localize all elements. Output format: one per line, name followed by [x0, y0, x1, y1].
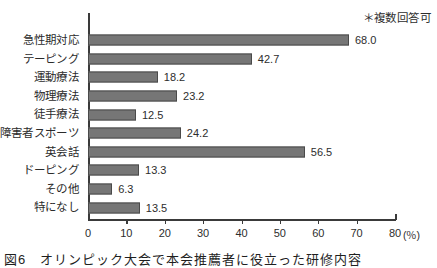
bar-value-label: 42.7 [258, 53, 279, 65]
bar-value-label: 18.2 [164, 71, 185, 83]
x-axis-tick-label: 20 [159, 227, 171, 239]
x-axis-tick [357, 219, 358, 224]
bar [88, 128, 181, 139]
bar [88, 146, 305, 157]
category-label: 運動療法 [34, 68, 79, 87]
x-axis-tick-label: 40 [235, 227, 247, 239]
x-axis-tick-label: 80 [389, 227, 401, 239]
bar [88, 184, 112, 195]
category-label: 英会話 [45, 143, 79, 162]
plot-area: (％) 0102030405060708068.042.718.223.212.… [88, 13, 395, 219]
x-axis-tick [395, 214, 397, 220]
bar-value-label: 12.5 [142, 109, 163, 121]
bar [88, 35, 349, 46]
category-label: ドーピング [23, 161, 80, 180]
bar [88, 91, 177, 102]
category-label: その他 [45, 180, 79, 199]
chart-row: 12.5 [88, 105, 395, 124]
bar [88, 202, 140, 213]
x-axis-tick [242, 219, 243, 224]
x-axis-tick [280, 219, 281, 224]
x-axis-unit-label: (％) [403, 227, 420, 242]
bar [88, 72, 158, 83]
bar [88, 109, 136, 120]
category-label: テーピング [23, 50, 80, 69]
chart-row: 68.0 [88, 31, 395, 50]
bar [88, 165, 139, 176]
x-axis-tick [203, 219, 204, 224]
x-axis-tick [165, 219, 166, 224]
chart-row: 23.2 [88, 87, 395, 106]
x-axis-tick-label: 0 [85, 227, 91, 239]
category-label: 障害者スポーツ [0, 124, 79, 143]
bar-value-label: 68.0 [355, 34, 376, 46]
category-label: 物理療法 [34, 87, 79, 106]
x-axis-tick-label: 30 [197, 227, 209, 239]
x-axis-tick-label: 70 [351, 227, 363, 239]
x-axis-tick-label: 50 [274, 227, 286, 239]
bar [88, 53, 252, 64]
category-label: 急性期対応 [23, 31, 80, 50]
bar-value-label: 6.3 [118, 183, 133, 195]
bar-value-label: 13.5 [146, 202, 167, 214]
x-axis-tick-label: 10 [120, 227, 132, 239]
x-axis-tick-label: 60 [312, 227, 324, 239]
category-label: 特になし [34, 198, 79, 217]
bar-value-label: 23.2 [183, 90, 204, 102]
category-label-column: 急性期対応テーピング運動療法物理療法徒手療法障害者スポーツ英会話ドーピングその他… [0, 13, 84, 219]
category-label: 徒手療法 [34, 105, 79, 124]
chart-row: 13.5 [88, 198, 395, 217]
x-axis-tick [126, 219, 127, 224]
chart-row: 42.7 [88, 50, 395, 69]
bar-value-label: 56.5 [311, 146, 332, 158]
figure-caption: 図6 オリンピック大会で本会推薦者に役立った研修内容 [4, 249, 362, 268]
bar-value-label: 24.2 [187, 127, 208, 139]
chart-row: 56.5 [88, 143, 395, 162]
chart-row: 24.2 [88, 124, 395, 143]
bar-value-label: 13.3 [145, 164, 166, 176]
chart-row: 18.2 [88, 68, 395, 87]
chart-row: 6.3 [88, 180, 395, 199]
x-axis-tick [318, 219, 319, 224]
chart-row: 13.3 [88, 161, 395, 180]
